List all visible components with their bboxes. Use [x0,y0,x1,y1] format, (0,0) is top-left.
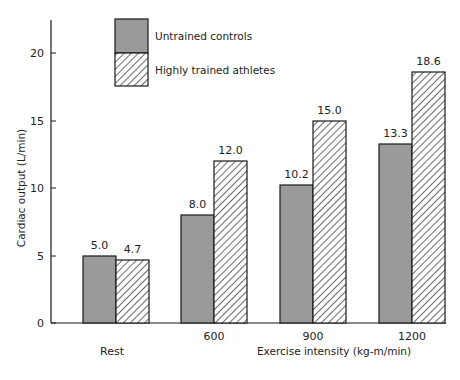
y-tick-label: 15 [30,115,44,128]
bar-untrained [83,256,116,323]
x-category-label: 1200 [398,330,426,343]
x-category-label: Rest [100,345,125,358]
bar-trained [412,72,445,323]
x-category-label: 900 [303,330,324,343]
bar-group-1200: 13.3 18.6 [379,55,445,323]
y-tick-label: 10 [30,182,44,195]
bar-untrained [181,215,214,323]
bar-untrained [379,144,412,323]
legend-label-trained: Highly trained athletes [155,64,275,76]
legend-label-untrained: Untrained controls [155,30,252,42]
value-label: 13.3 [383,127,408,140]
bar-group-900: 10.2 15.0 [280,104,346,323]
x-category-label: 600 [204,330,225,343]
value-label: 5.0 [91,239,109,252]
bar-untrained [280,185,313,323]
value-label: 15.0 [317,104,342,117]
value-label: 8.0 [189,198,207,211]
bar-group-600: 8.0 12.0 [181,144,247,323]
value-label: 10.2 [284,168,309,181]
y-tick-label: 20 [30,47,44,60]
x-axis-title: Exercise intensity (kg-m/min) [257,345,411,357]
chart: 0 5 10 15 20 Cardiac output (L/min) 5.0 … [0,0,460,380]
y-axis-title: Cardiac output (L/min) [15,129,27,247]
y-tick-label: 5 [37,250,44,263]
legend-swatch-untrained [115,19,148,53]
y-ticks: 0 5 10 15 20 [30,47,56,330]
bar-trained [116,260,149,323]
bar-group-rest: 5.0 4.7 [83,239,149,323]
value-label: 4.7 [124,243,142,256]
legend: Untrained controls Highly trained athlet… [115,19,275,86]
y-tick-label: 0 [37,317,44,330]
value-label: 18.6 [416,55,441,68]
value-label: 12.0 [218,144,243,157]
bar-trained [313,121,346,323]
bar-trained [214,161,247,323]
legend-swatch-trained [115,53,148,86]
